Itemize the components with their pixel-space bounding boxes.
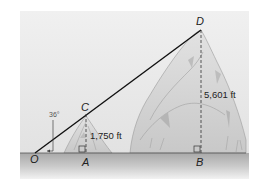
- ground: [20, 153, 249, 179]
- diagram-canvas: 36° O A B C D 1,750 ft 5,601 ft: [0, 0, 261, 186]
- angle-label: 36°: [49, 111, 60, 118]
- measurement-AC: 1,750 ft: [90, 130, 122, 141]
- point-label-D: D: [196, 15, 204, 27]
- point-label-B: B: [196, 156, 203, 168]
- point-label-C: C: [81, 101, 89, 113]
- point-label-A: A: [81, 156, 89, 168]
- point-label-O: O: [30, 153, 39, 165]
- measurement-BD: 5,601 ft: [204, 89, 236, 100]
